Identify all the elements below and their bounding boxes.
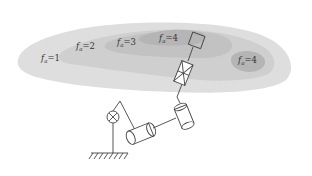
- region-label-4a: fa=4: [158, 33, 178, 44]
- region-label-1: fa=1: [40, 53, 60, 64]
- region-label-3: fa=3: [116, 37, 136, 48]
- link-2: [153, 118, 176, 128]
- ground-base-icon: [89, 153, 128, 159]
- region-label-2: fa=2: [75, 41, 95, 52]
- revolute-joint-icon: [107, 111, 119, 123]
- robot-workspace-diagram: fa=1 fa=2 fa=3 fa=4 fa=4: [0, 0, 312, 176]
- region-label-4b: fa=4: [237, 55, 257, 66]
- cylindrical-joint-2-icon: [173, 102, 195, 131]
- cylindrical-joint-1-icon: [124, 122, 157, 146]
